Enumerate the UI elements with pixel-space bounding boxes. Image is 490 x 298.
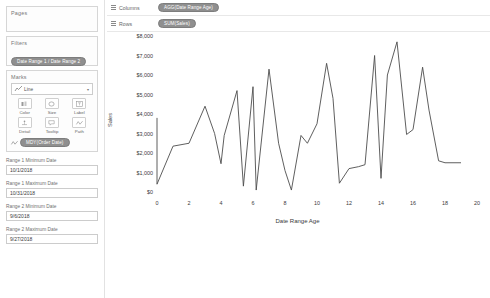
- parameter-range1-min-label: Range 1 Minimum Date: [6, 157, 98, 164]
- marks-button-path[interactable]: Path: [66, 117, 93, 134]
- parameter-range2-max-label: Range 2 Maximum Date: [6, 226, 98, 233]
- filters-shelf[interactable]: Filters Date Range 1 / Date Range 2: [6, 36, 98, 66]
- pages-shelf-title: Pages: [11, 10, 93, 17]
- marks-button-size[interactable]: Size: [38, 98, 65, 115]
- y-axis-tick-label: $2,000: [137, 150, 154, 156]
- rows-pill-sum-sales[interactable]: SUM(Sales): [158, 19, 196, 28]
- rows-pill-label: SUM(Sales): [164, 21, 190, 26]
- marks-button-tooltip[interactable]: Tooltip: [38, 117, 65, 134]
- marks-pill-row: MDY(Order Date): [11, 138, 93, 147]
- x-axis-tick-label: 2: [188, 200, 191, 206]
- parameter-range1-max-input[interactable]: 10/31/2018: [6, 188, 98, 198]
- path-icon: [11, 140, 18, 146]
- parameter-range1-min-input[interactable]: 10/1/2018: [6, 165, 98, 175]
- parameter-range2-min-label: Range 2 Minimum Date: [6, 203, 98, 210]
- detail-icon: [18, 117, 32, 128]
- x-axis-tick-label: 20: [474, 200, 480, 206]
- filters-shelf-title: Filters: [11, 40, 93, 47]
- marks-button-label[interactable]: Label: [66, 98, 93, 115]
- rows-shelf-label-wrap: Rows: [111, 21, 153, 27]
- line-chart-icon: [15, 86, 22, 92]
- y-axis-tick-label: $5,000: [137, 92, 154, 98]
- mark-type-dropdown[interactable]: Line ▾: [11, 83, 93, 95]
- columns-pill-date-range-age[interactable]: AGG(Date Range Age): [158, 3, 219, 12]
- visualization-area: Sales $0$1,000$2,000$3,000$4,000$5,000$6…: [105, 32, 490, 298]
- x-axis-tick-label: 4: [220, 200, 223, 206]
- rows-icon: [111, 21, 116, 26]
- marks-button-tooltip-label: Tooltip: [46, 129, 59, 134]
- parameter-range1-max-label: Range 1 Maximum Date: [6, 180, 98, 187]
- color-icon: [18, 98, 32, 109]
- marks-button-label-label: Label: [74, 110, 85, 115]
- parameter-range2-max: Range 2 Maximum Date 9/27/2018: [6, 226, 98, 244]
- marks-card: Marks Line ▾ Color: [6, 70, 98, 152]
- parameter-range2-min: Range 2 Minimum Date 9/6/2018: [6, 203, 98, 221]
- y-axis-tick-label: $7,000: [137, 53, 154, 59]
- x-axis-title: Date Range Age: [105, 218, 490, 224]
- tableau-worksheet: Pages Filters Date Range 1 / Date Range …: [0, 0, 490, 298]
- y-axis-tick-label: $4,000: [137, 111, 154, 117]
- columns-pill-label: AGG(Date Range Age): [164, 5, 213, 10]
- label-icon: [72, 98, 86, 109]
- parameter-range2-max-input[interactable]: 9/27/2018: [6, 234, 98, 244]
- x-axis-tick-label: 6: [252, 200, 255, 206]
- y-axis-tick-label: $3,000: [137, 131, 154, 137]
- size-icon: [45, 98, 59, 109]
- left-sidebar: Pages Filters Date Range 1 / Date Range …: [0, 0, 104, 298]
- columns-icon: [111, 5, 116, 10]
- x-axis-tick-label: 12: [346, 200, 352, 206]
- marks-button-detail[interactable]: Detail: [11, 117, 38, 134]
- y-axis-tick-label: $1,000: [137, 170, 154, 176]
- marks-pill-label: MDY(Order Date): [26, 140, 64, 145]
- path-icon: [72, 117, 86, 128]
- columns-shelf-label: Columns: [119, 5, 139, 11]
- pages-shelf[interactable]: Pages: [6, 6, 98, 32]
- x-axis-tick-label: 18: [442, 200, 448, 206]
- y-axis-tick-label: $8,000: [137, 33, 154, 39]
- parameter-range1-min: Range 1 Minimum Date 10/1/2018: [6, 157, 98, 175]
- line-chart-plot[interactable]: [157, 36, 477, 192]
- chevron-down-icon[interactable]: ▾: [87, 87, 89, 92]
- marks-buttons-grid: Color Size Label: [11, 98, 93, 134]
- x-axis-tick-label: 10: [314, 200, 320, 206]
- marks-card-title: Marks: [11, 74, 93, 81]
- marks-button-color-label: Color: [19, 110, 30, 115]
- columns-shelf[interactable]: Columns AGG(Date Range Age): [107, 0, 490, 16]
- parameter-range2-min-input[interactable]: 9/6/2018: [6, 211, 98, 221]
- rows-shelf[interactable]: Rows SUM(Sales): [107, 16, 490, 32]
- y-axis-ticks: $0$1,000$2,000$3,000$4,000$5,000$6,000$7…: [113, 32, 153, 192]
- y-axis-tick-label: $0: [147, 189, 153, 195]
- marks-button-size-label: Size: [48, 110, 57, 115]
- x-axis-tick-label: 14: [378, 200, 384, 206]
- columns-shelf-label-wrap: Columns: [111, 5, 153, 11]
- parameter-range1-max: Range 1 Maximum Date 10/31/2018: [6, 180, 98, 198]
- filter-pill-date-range[interactable]: Date Range 1 / Date Range 2: [11, 57, 86, 66]
- x-axis-tick-label: 0: [156, 200, 159, 206]
- chart-svg: [157, 36, 477, 192]
- x-axis-ticks: 02468101214161820: [105, 200, 490, 212]
- mark-type-value: Line: [24, 87, 33, 92]
- filter-pill-label: Date Range 1 / Date Range 2: [17, 59, 80, 64]
- tooltip-icon: [45, 117, 59, 128]
- x-axis-tick-label: 16: [410, 200, 416, 206]
- worksheet-main: Columns AGG(Date Range Age) Rows SUM(Sal…: [104, 0, 490, 298]
- marks-button-color[interactable]: Color: [11, 98, 38, 115]
- rows-shelf-label: Rows: [119, 21, 132, 27]
- marks-pill-order-date[interactable]: MDY(Order Date): [20, 138, 70, 147]
- y-axis-tick-label: $6,000: [137, 72, 154, 78]
- marks-button-path-label: Path: [75, 129, 84, 134]
- marks-button-detail-label: Detail: [19, 129, 30, 134]
- x-axis-tick-label: 8: [284, 200, 287, 206]
- chart-line-series: [157, 42, 461, 190]
